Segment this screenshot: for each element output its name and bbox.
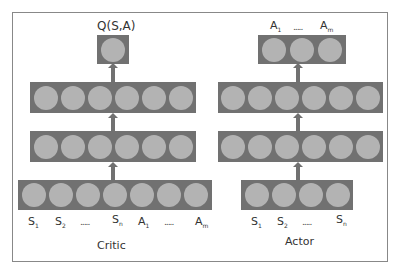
neuron <box>157 183 181 207</box>
actor-input-label: S1 <box>251 215 262 229</box>
actor-hidden-layer-1 <box>218 82 383 113</box>
neuron <box>61 135 85 159</box>
neuron <box>169 135 193 159</box>
actor-arrow-1 <box>296 67 300 82</box>
actor-input-ellipsis: ..... <box>302 217 311 227</box>
neuron <box>329 86 353 110</box>
neuron <box>184 183 208 207</box>
neuron <box>142 86 166 110</box>
neuron <box>221 135 245 159</box>
critic-hidden-layer-2 <box>30 131 196 162</box>
actor-arrow-3 <box>296 166 300 180</box>
actor-output-ellipsis: ..... <box>293 22 302 32</box>
actor-input-label: S2 <box>277 215 288 229</box>
critic-arrow-1 <box>111 67 115 82</box>
neuron <box>272 183 296 207</box>
neuron <box>130 183 154 207</box>
critic-input-label: S1 <box>28 215 39 229</box>
neuron <box>34 86 58 110</box>
neuron <box>103 183 127 207</box>
neuron <box>302 135 326 159</box>
actor-output-label: A1 <box>270 19 281 33</box>
critic-input-ellipsis: ..... <box>164 217 173 227</box>
neuron <box>34 135 58 159</box>
neuron <box>88 86 112 110</box>
neuron <box>61 86 85 110</box>
critic-arrow-2 <box>111 117 115 131</box>
actor-input-layer <box>241 180 353 210</box>
critic-input-layer <box>18 180 212 210</box>
neuron <box>245 183 269 207</box>
neuron <box>101 38 125 62</box>
critic-input-label: Sn <box>112 213 123 227</box>
neuron <box>221 86 245 110</box>
actor-output-layer <box>258 35 346 64</box>
critic-input-ellipsis: ..... <box>80 217 89 227</box>
actor-hidden-layer-2 <box>218 131 383 162</box>
critic-input-label: S2 <box>55 215 66 229</box>
actor-title: Actor <box>285 235 314 248</box>
actor-input-label: Sn <box>336 213 347 227</box>
neuron <box>49 183 73 207</box>
neuron <box>76 183 100 207</box>
neuron <box>302 86 326 110</box>
neuron <box>169 86 193 110</box>
neuron <box>115 86 139 110</box>
neuron <box>262 38 286 62</box>
critic-arrow-3 <box>111 166 115 180</box>
neuron <box>115 135 139 159</box>
neuron <box>356 86 380 110</box>
critic-hidden-layer-1 <box>30 82 196 113</box>
neuron <box>356 135 380 159</box>
critic-input-label: Am <box>195 215 208 229</box>
neuron <box>318 38 342 62</box>
critic-output-layer <box>97 35 129 64</box>
actor-output-label: Am <box>320 19 333 33</box>
neuron <box>248 135 272 159</box>
actor-arrow-2 <box>296 117 300 131</box>
critic-input-label: A1 <box>138 215 149 229</box>
neuron <box>275 135 299 159</box>
neuron <box>248 86 272 110</box>
neuron <box>22 183 46 207</box>
neuron <box>290 38 314 62</box>
neuron <box>326 183 350 207</box>
neuron <box>275 86 299 110</box>
critic-output-label: Q(S,A) <box>97 19 135 33</box>
neuron <box>142 135 166 159</box>
neuron <box>88 135 112 159</box>
neuron <box>299 183 323 207</box>
neuron <box>329 135 353 159</box>
critic-title: Critic <box>97 239 126 252</box>
